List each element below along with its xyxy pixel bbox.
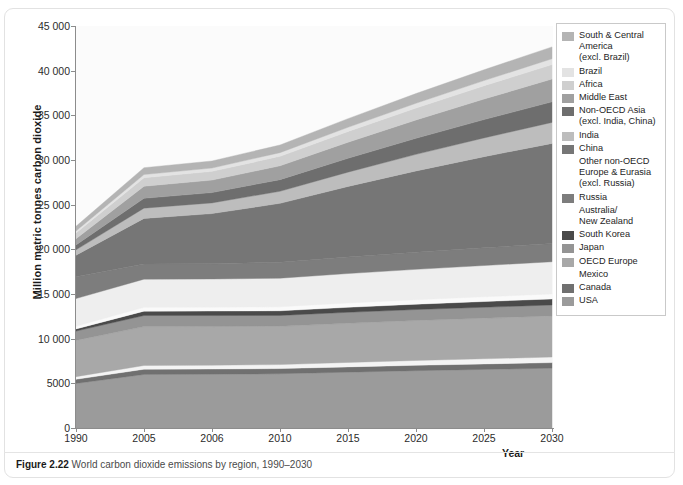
legend-label: Other non-OECD Europe & Eurasia (excl. R… <box>579 156 651 190</box>
legend-item[interactable]: India <box>562 130 661 141</box>
y-tick-label: 40 000 <box>8 65 70 77</box>
x-tick-label: 2010 <box>268 432 291 444</box>
legend-item[interactable]: Brazil <box>562 66 661 77</box>
legend-label: South & Central America (excl. Brazil) <box>579 30 644 64</box>
legend: South & Central America (excl. Brazil)Br… <box>556 23 666 316</box>
legend-label: Brazil <box>579 66 602 77</box>
y-axis-line <box>75 26 76 429</box>
legend-label: China <box>579 143 603 154</box>
legend-item[interactable]: Middle East <box>562 92 661 103</box>
legend-label: OECD Europe <box>579 256 638 267</box>
legend-label: Canada <box>579 282 611 293</box>
y-tick-label: 10 000 <box>8 333 70 345</box>
legend-swatch-icon <box>562 271 574 280</box>
y-tick-label: 0 <box>8 422 70 434</box>
x-axis-title: Year <box>502 447 524 459</box>
legend-swatch-icon <box>562 94 574 103</box>
legend-item[interactable]: Canada <box>562 282 661 293</box>
legend-item[interactable]: Mexico <box>562 269 661 280</box>
y-axis-ticks: 45 00040 00035 00030 00025 00020 00015 0… <box>0 0 70 485</box>
figure-page: Million metric tonnes carbon dioxide 45 … <box>0 0 683 485</box>
legend-item[interactable]: Non-OECD Asia (excl. India, China) <box>562 105 661 127</box>
x-tick-mark <box>212 428 213 432</box>
caption-divider <box>4 452 675 453</box>
legend-label: Australia/ New Zealand <box>579 205 633 227</box>
plot-area <box>76 26 553 428</box>
y-tick-label: 30 000 <box>8 154 70 166</box>
caption-number: Figure 2.22 <box>16 459 69 470</box>
caption-text: World carbon dioxide emissions by region… <box>69 459 312 470</box>
x-tick-label: 2005 <box>132 432 155 444</box>
legend-item[interactable]: Australia/ New Zealand <box>562 205 661 227</box>
figure-caption: Figure 2.22 World carbon dioxide emissio… <box>16 459 312 470</box>
y-tick-label: 15 000 <box>8 288 70 300</box>
legend-label: Africa <box>579 79 603 90</box>
y-tick-label: 20 000 <box>8 243 70 255</box>
legend-swatch-icon <box>562 244 574 253</box>
legend-label: South Korea <box>579 229 630 240</box>
y-tick-label: 35 000 <box>8 109 70 121</box>
legend-item[interactable]: USA <box>562 295 661 306</box>
legend-label: Russia <box>579 192 607 203</box>
legend-swatch-icon <box>562 132 574 141</box>
legend-swatch-icon <box>562 81 574 90</box>
legend-swatch-icon <box>562 107 574 116</box>
legend-swatch-icon <box>562 158 574 167</box>
x-tick-label: 2006 <box>200 432 223 444</box>
x-tick-label: 2025 <box>472 432 495 444</box>
legend-label: Japan <box>579 242 604 253</box>
legend-item[interactable]: South Korea <box>562 229 661 240</box>
x-tick-mark <box>552 428 553 432</box>
legend-label: Middle East <box>579 92 627 103</box>
x-tick-label: 1990 <box>64 432 87 444</box>
legend-swatch-icon <box>562 258 574 267</box>
x-tick-label: 2030 <box>540 432 563 444</box>
legend-item[interactable]: Japan <box>562 242 661 253</box>
legend-swatch-icon <box>562 68 574 77</box>
legend-item[interactable]: OECD Europe <box>562 256 661 267</box>
y-tick-label: 5000 <box>8 377 70 389</box>
x-tick-mark <box>144 428 145 432</box>
area-series-group <box>76 47 552 428</box>
x-tick-mark <box>76 428 77 432</box>
x-tick-mark <box>484 428 485 432</box>
legend-swatch-icon <box>562 194 574 203</box>
stacked-area-svg <box>76 26 553 428</box>
legend-label: USA <box>579 295 598 306</box>
x-tick-mark <box>348 428 349 432</box>
legend-swatch-icon <box>562 284 574 293</box>
legend-item[interactable]: Other non-OECD Europe & Eurasia (excl. R… <box>562 156 661 190</box>
area-series <box>76 368 552 428</box>
legend-item[interactable]: South & Central America (excl. Brazil) <box>562 30 661 64</box>
legend-label: India <box>579 130 599 141</box>
legend-item[interactable]: China <box>562 143 661 154</box>
legend-label: Non-OECD Asia (excl. India, China) <box>579 105 656 127</box>
x-tick-mark <box>280 428 281 432</box>
legend-swatch-icon <box>562 297 574 306</box>
legend-item[interactable]: Russia <box>562 192 661 203</box>
legend-swatch-icon <box>562 231 574 240</box>
legend-label: Mexico <box>579 269 608 280</box>
y-tick-label: 25 000 <box>8 199 70 211</box>
legend-swatch-icon <box>562 32 574 41</box>
x-tick-mark <box>416 428 417 432</box>
x-axis-line <box>75 428 554 429</box>
x-tick-label: 2015 <box>336 432 359 444</box>
x-tick-label: 2020 <box>404 432 427 444</box>
y-tick-label: 45 000 <box>8 20 70 32</box>
legend-swatch-icon <box>562 145 574 154</box>
legend-swatch-icon <box>562 207 574 216</box>
legend-item[interactable]: Africa <box>562 79 661 90</box>
